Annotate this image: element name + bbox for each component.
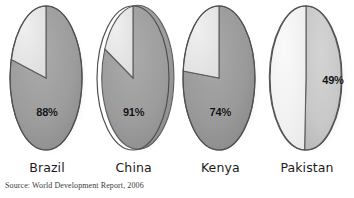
pie-chart-figure: 88%: [0, 0, 354, 198]
pie-chart-brazil[interactable]: 88%: [6, 0, 88, 162]
pie-value-label-kenya: 74%: [179, 106, 261, 118]
pie-graphic-china: [93, 2, 175, 158]
pie-value-label-china: 91%: [93, 106, 175, 118]
source-note: Source: World Development Report, 2006: [5, 181, 144, 190]
country-labels-row: Brazil China Kenya Pakistan: [0, 160, 354, 180]
pie-chart-row: 88%: [0, 0, 354, 162]
pie-slice-remainder-kenya[interactable]: [183, 6, 219, 78]
pie-chart-china[interactable]: 91%: [93, 0, 175, 162]
pie-chart-kenya[interactable]: 74%: [179, 0, 261, 162]
country-label-kenya: Kenya: [179, 160, 261, 180]
pie-slices-china: [102, 5, 174, 149]
pie-value-label-pakistan: 49%: [266, 74, 354, 86]
pie-graphic-brazil: [6, 2, 88, 158]
country-label-brazil: Brazil: [6, 160, 88, 180]
pie-chart-pakistan[interactable]: 49%: [266, 0, 348, 162]
country-label-pakistan: Pakistan: [266, 160, 348, 180]
pie-graphic-kenya: [179, 2, 261, 158]
pie-ellipse-brazil: 88%: [6, 2, 88, 158]
pie-value-label-brazil: 88%: [6, 106, 88, 118]
country-label-china: China: [93, 160, 175, 180]
pie-ellipse-pakistan: 49%: [266, 2, 348, 158]
pie-ellipse-kenya: 74%: [179, 2, 261, 158]
pie-ellipse-china: 91%: [93, 2, 175, 158]
